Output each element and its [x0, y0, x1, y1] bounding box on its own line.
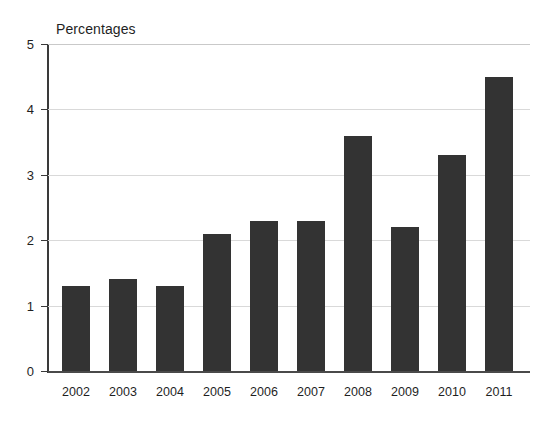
bar-2004	[156, 286, 184, 371]
x-axis-label: 2002	[53, 385, 99, 399]
bar-2007	[297, 221, 325, 371]
x-axis-label: 2005	[194, 385, 240, 399]
x-axis-label: 2008	[335, 385, 381, 399]
bar-2002	[62, 286, 90, 371]
x-axis-label: 2009	[382, 385, 428, 399]
x-axis-label: 2010	[429, 385, 475, 399]
x-axis-label: 2004	[147, 385, 193, 399]
y-axis-label: 5	[0, 37, 34, 52]
gridline-4	[48, 109, 530, 110]
gridline-5	[48, 44, 530, 45]
bar-2010	[438, 155, 466, 371]
bar-2009	[391, 227, 419, 371]
x-axis-label: 2006	[241, 385, 287, 399]
y-axis-label: 4	[0, 102, 34, 117]
y-tick-3	[41, 175, 48, 176]
y-axis-label: 1	[0, 298, 34, 313]
y-tick-1	[41, 306, 48, 307]
y-axis-label: 0	[0, 364, 34, 379]
bar-2003	[109, 279, 137, 371]
y-tick-4	[41, 109, 48, 110]
bar-chart: Percentages 012345 200220032004200520062…	[0, 0, 543, 422]
bar-2005	[203, 234, 231, 371]
bar-2006	[250, 221, 278, 371]
x-axis-label: 2011	[476, 385, 522, 399]
y-tick-2	[41, 240, 48, 241]
bar-2011	[485, 77, 513, 371]
y-tick-0	[41, 371, 48, 372]
bar-2008	[344, 136, 372, 371]
chart-title: Percentages	[56, 21, 136, 37]
x-axis-label: 2003	[100, 385, 146, 399]
y-axis-label: 2	[0, 233, 34, 248]
y-tick-5	[41, 44, 48, 45]
x-axis-label: 2007	[288, 385, 334, 399]
plot-area	[48, 44, 530, 371]
x-axis-baseline	[48, 371, 530, 373]
y-axis-label: 3	[0, 167, 34, 182]
